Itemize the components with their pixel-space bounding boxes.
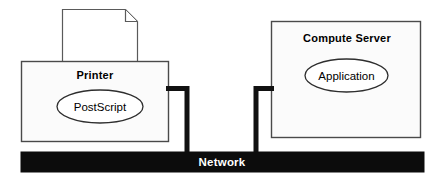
paper-sheet [63,10,138,63]
compute-server-node[interactable]: Compute Server Application [272,22,421,138]
network-label: Network [199,156,246,168]
diagram-canvas: Printer PostScript Compute Server Applic… [0,0,445,185]
printer-label: Printer [77,69,114,81]
application-label: Application [318,70,374,82]
printer-node[interactable]: Printer PostScript [22,62,169,142]
postscript-label: PostScript [74,101,127,113]
compute-server-label: Compute Server [303,32,391,44]
network-diagram: Printer PostScript Compute Server Applic… [0,0,445,185]
network-bus[interactable]: Network [21,152,424,172]
